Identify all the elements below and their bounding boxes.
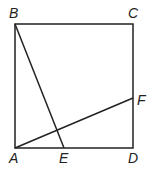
segment-af — [15, 98, 133, 148]
square-abcd — [15, 24, 133, 148]
label-a: A — [8, 150, 18, 166]
label-d: D — [128, 150, 138, 166]
label-e: E — [59, 150, 69, 166]
geometry-diagram: B C F A E D — [0, 0, 152, 172]
label-b: B — [9, 5, 18, 21]
label-c: C — [128, 5, 139, 21]
label-f: F — [137, 92, 147, 108]
segment-be — [15, 24, 64, 148]
